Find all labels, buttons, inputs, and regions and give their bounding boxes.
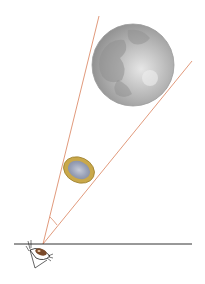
diagram-canvas <box>0 0 205 284</box>
angle-arc <box>50 217 57 225</box>
moon <box>92 24 174 106</box>
